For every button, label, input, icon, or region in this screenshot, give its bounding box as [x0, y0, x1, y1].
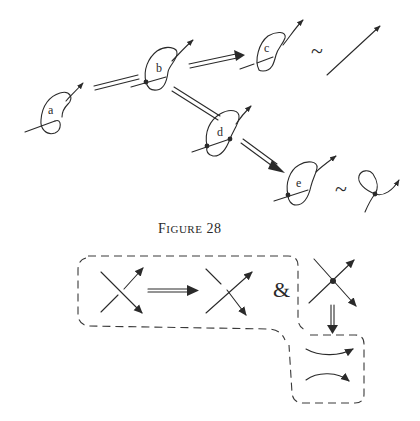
- smoothing-arcs: [306, 349, 353, 381]
- figure-caption: FIGURE 28: [158, 221, 221, 236]
- implies-arrow: [148, 285, 199, 296]
- figure-28-diagram: a b c ~ d: [0, 0, 420, 421]
- equality-b-d: [172, 87, 220, 120]
- singular-crossing: [309, 259, 356, 306]
- singular-point: [144, 80, 149, 85]
- singular-point: [330, 278, 336, 284]
- trivial-strand: [327, 26, 380, 75]
- knot-e: e: [274, 156, 336, 205]
- singular-point: [228, 137, 233, 142]
- singular-loop: [359, 171, 399, 212]
- crossing-positive: [101, 268, 143, 313]
- dashed-region-right: [289, 335, 364, 403]
- singular-point: [205, 144, 210, 149]
- arrow-d-e: [241, 139, 285, 173]
- knot-label-e: e: [296, 176, 301, 190]
- knot-label-d: d: [217, 125, 223, 139]
- resolution-arrow: [327, 305, 338, 334]
- arrow-b-c: [189, 50, 245, 68]
- knot-label-b: b: [156, 61, 162, 75]
- singular-point: [373, 192, 378, 197]
- crossing-negative: [206, 269, 252, 315]
- knot-b: b: [131, 40, 193, 90]
- knot-label-a: a: [48, 103, 54, 117]
- equivalence-symbol: ~: [311, 38, 323, 63]
- knot-c: c: [240, 20, 303, 71]
- dashed-region-left: [78, 256, 306, 340]
- singular-point: [286, 193, 291, 198]
- equivalence-symbol: ~: [335, 176, 347, 201]
- knot-a: a: [25, 83, 83, 134]
- equality-a-b: [94, 75, 139, 90]
- knot-d: d: [192, 106, 251, 156]
- and-symbol: &: [273, 277, 290, 302]
- knot-label-c: c: [264, 41, 269, 55]
